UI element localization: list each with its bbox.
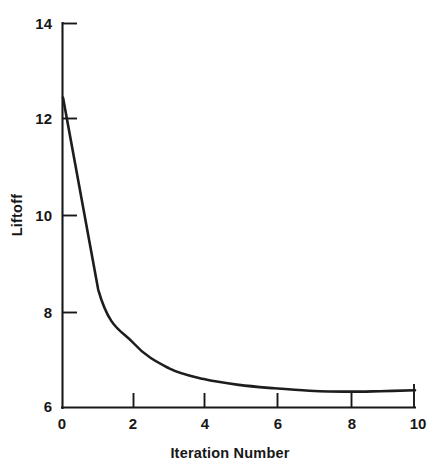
axis-lines <box>62 23 415 408</box>
x-tick-label-10: 10 <box>410 415 427 432</box>
liftoff-curve <box>63 98 415 392</box>
y-tick-label-10: 10 <box>35 207 52 224</box>
y-tick-label-14: 14 <box>35 15 52 32</box>
x-tick-label-0: 0 <box>58 415 66 432</box>
x-tick-labels: 0 2 4 6 8 10 <box>58 415 427 432</box>
line-chart-svg: 14 12 10 8 6 0 2 4 6 8 10 Liftoff Iterat… <box>0 0 442 471</box>
x-tick-label-8: 8 <box>348 415 356 432</box>
y-axis-title: Liftoff <box>9 194 25 236</box>
y-tick-label-8: 8 <box>44 304 52 321</box>
y-tick-label-6: 6 <box>44 398 52 415</box>
chart-figure: 14 12 10 8 6 0 2 4 6 8 10 Liftoff Iterat… <box>0 0 442 471</box>
y-tick-label-12: 12 <box>35 110 52 127</box>
x-tick-label-6: 6 <box>274 415 282 432</box>
x-tick-label-4: 4 <box>201 415 210 432</box>
x-tick-label-2: 2 <box>129 415 137 432</box>
x-axis-title: Iteration Number <box>170 445 289 461</box>
y-tick-labels: 14 12 10 8 6 <box>35 15 52 415</box>
